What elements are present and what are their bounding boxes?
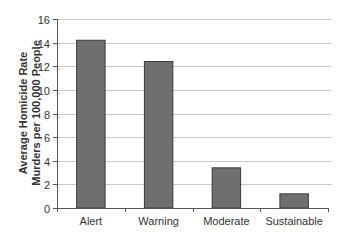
y-axis-label-line-1: Average Homicide Rate <box>17 52 29 174</box>
bar-chart: 0246810121416 AlertWarningModerateSustai… <box>0 0 341 236</box>
x-tick-label: Sustainable <box>265 215 323 227</box>
bars <box>77 40 309 208</box>
bar-alert <box>77 40 105 208</box>
x-tick-label: Moderate <box>203 215 249 227</box>
x-tick-labels: AlertWarningModerateSustainable <box>80 215 323 227</box>
y-axis-label: Average Homicide Rate Murders per 100,00… <box>17 40 42 186</box>
x-tick-label: Alert <box>80 215 103 227</box>
y-tick-label: 4 <box>44 156 50 168</box>
y-tick-label: 6 <box>44 132 50 144</box>
y-tick-label: 2 <box>44 179 50 191</box>
y-tick-label: 8 <box>44 109 50 121</box>
y-tick-label: 16 <box>38 14 50 26</box>
x-tick-label: Warning <box>138 215 179 227</box>
y-axis-label-line-2: Murders per 100,000 People <box>30 40 42 186</box>
bar-sustainable <box>280 194 308 208</box>
bar-warning <box>144 62 172 208</box>
y-tick-label: 0 <box>44 203 50 215</box>
bar-moderate <box>212 168 240 208</box>
